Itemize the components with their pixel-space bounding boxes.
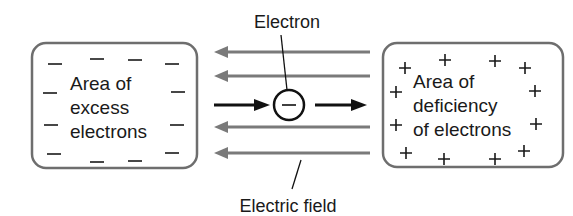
deficiency-electrons-region: Area of deficiency of electrons [383,43,563,167]
arrow-right-icon [254,99,270,111]
electric-field-callout: Electric field [239,160,336,216]
electron-label: Electron [254,12,320,32]
left-region-label: Area of excess electrons [70,73,147,142]
arrow-right-icon [351,99,367,111]
field-leader-line [292,160,301,189]
electric-field-diagram: Area of excess electrons Area of deficie… [0,0,573,216]
right-region-label: Area of deficiency of electrons [413,71,511,140]
excess-electrons-region: Area of excess electrons [32,43,197,168]
electric-field-label: Electric field [239,196,336,216]
electron-leader-line [281,35,287,90]
